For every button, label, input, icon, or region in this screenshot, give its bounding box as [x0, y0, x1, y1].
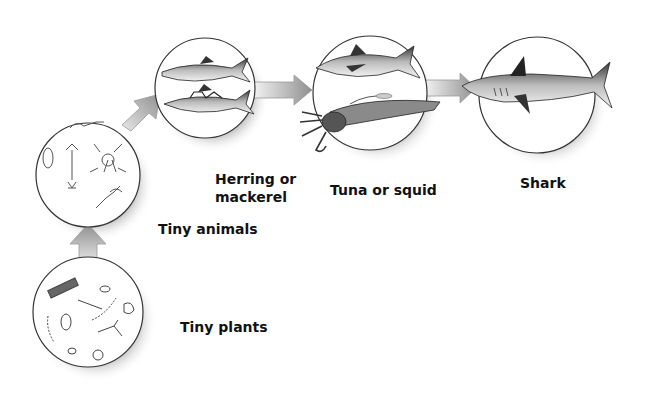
label-tuna-squid: Tuna or squid [330, 181, 437, 199]
food-chain-diagram: Herring or mackerel Tuna or squid Shark … [0, 0, 652, 396]
label-tiny-animals: Tiny animals [158, 220, 258, 238]
tiny-plants-circle [33, 257, 143, 367]
label-shark: Shark [520, 174, 566, 192]
label-tiny-plants: Tiny plants [180, 318, 268, 336]
diagram-graphics [0, 0, 652, 396]
arrow-animals-to-herring [122, 94, 160, 131]
label-herring-mackerel: Herring or mackerel [215, 170, 296, 206]
tiny-animals-circle [36, 123, 140, 227]
